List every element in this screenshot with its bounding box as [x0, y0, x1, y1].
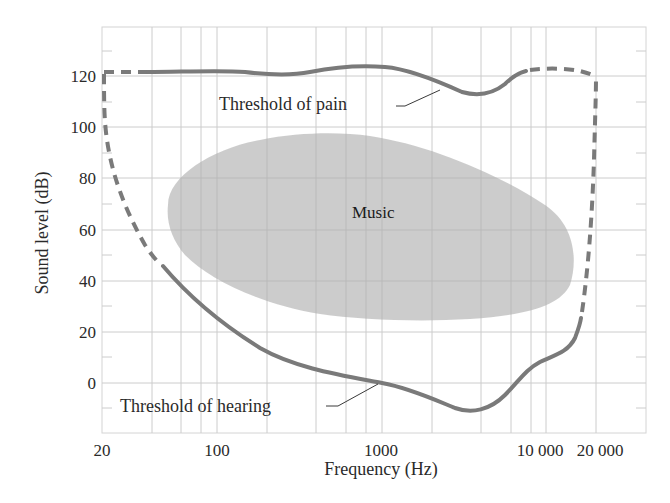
hearing-annotation-label: Threshold of hearing — [120, 396, 271, 416]
music-label: Music — [352, 203, 395, 222]
x-axis-title: Frequency (Hz) — [324, 459, 437, 480]
pain-annotation-label: Threshold of pain — [219, 94, 347, 114]
svg-text:40: 40 — [79, 272, 96, 291]
svg-text:20: 20 — [94, 441, 111, 460]
y-tick-labels: 120 100 80 60 40 20 0 — [71, 67, 97, 393]
svg-text:100: 100 — [71, 118, 97, 137]
svg-text:100: 100 — [204, 441, 230, 460]
svg-text:0: 0 — [88, 374, 97, 393]
svg-text:80: 80 — [79, 169, 96, 188]
svg-text:60: 60 — [79, 221, 96, 240]
svg-text:20 000: 20 000 — [577, 441, 624, 460]
svg-text:20: 20 — [79, 323, 96, 342]
y-axis-title: Sound level (dB) — [32, 172, 53, 295]
svg-text:1000: 1000 — [364, 441, 398, 460]
svg-text:120: 120 — [71, 67, 97, 86]
sound-level-chart: Music Threshold of pain Threshold of hea… — [0, 0, 670, 503]
x-tick-labels: 20 100 1000 10 000 20 000 — [94, 441, 624, 460]
svg-text:10 000: 10 000 — [517, 441, 564, 460]
